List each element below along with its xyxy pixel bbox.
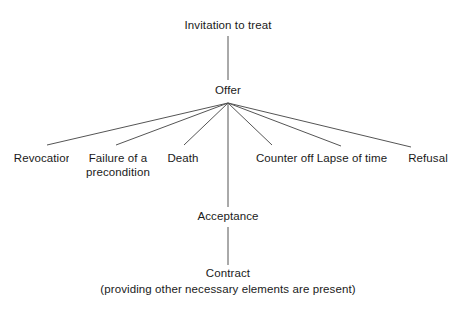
branch-label-failure-line-2: precondition (86, 166, 150, 178)
branch-line-lapse-of-time (228, 103, 341, 146)
node-contract-note: (providing other necessary elements are … (55, 282, 401, 296)
branch-label-failure-of-a-precondition: Failure of a precondition (69, 152, 167, 179)
branch-line-death (184, 103, 228, 145)
branch-label-lapse-of-time: Lapse of time (314, 152, 390, 166)
contract-formation-diagram: Invitation to treat Offer Revocation Fai… (0, 0, 464, 312)
branch-line-counter-offer (228, 103, 272, 145)
node-invitation-to-treat: Invitation to treat (182, 19, 275, 33)
node-offer: Offer (212, 84, 244, 98)
branch-label-death: Death (164, 152, 201, 166)
branch-line-failure-of-a-precondition (116, 103, 228, 145)
branch-label-revocation: Revocation (11, 152, 76, 166)
node-contract: Contract (203, 267, 253, 281)
branch-line-revocation (47, 103, 228, 145)
branch-label-failure-line-1: Failure of a (89, 152, 148, 164)
node-acceptance: Acceptance (194, 210, 261, 224)
branch-label-refusal: Refusal (405, 152, 451, 166)
branch-line-refusal (228, 103, 411, 147)
